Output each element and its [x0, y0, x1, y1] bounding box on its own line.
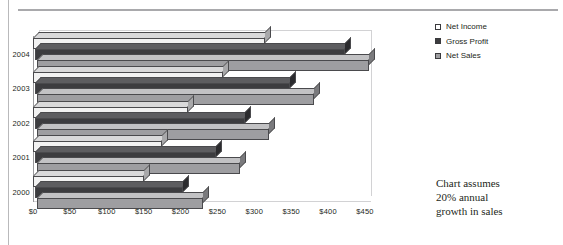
y-axis-tick-2000: 2000 — [4, 188, 30, 197]
bar-side-face — [203, 186, 209, 203]
bar-side-face — [290, 71, 296, 88]
legend-label: Net Income — [446, 22, 487, 31]
x-axis-tick-200: $200 — [164, 207, 198, 216]
bar-side-face — [245, 106, 251, 123]
legend-label: Gross Profit — [446, 37, 488, 46]
x-axis-tick-450: $450 — [348, 207, 382, 216]
y-axis-tick-2004: 2004 — [4, 50, 30, 59]
legend-swatch-net-income-icon — [435, 24, 441, 30]
bar-side-face — [265, 26, 271, 43]
bars-container — [33, 30, 411, 202]
x-axis-tick-400: $400 — [311, 207, 345, 216]
y-axis-tick-2001: 2001 — [4, 153, 30, 162]
x-axis-tick-150: $150 — [127, 207, 161, 216]
annotation-line-2: 20% annual — [436, 190, 561, 204]
bar-side-face — [269, 117, 275, 134]
annotation-line-1: Chart assumes — [436, 176, 561, 190]
x-axis-tick-50: $50 — [53, 207, 87, 216]
chart-annotation: Chart assumes 20% annual growth in sales — [436, 176, 561, 218]
x-axis-tick-250: $250 — [200, 207, 234, 216]
legend-swatch-gross-profit-icon — [435, 38, 441, 44]
legend-label: Net Sales — [446, 51, 481, 60]
y-axis-tick-2002: 2002 — [4, 119, 30, 128]
bar-side-face — [369, 48, 375, 65]
bar-side-face — [183, 175, 189, 192]
bar-side-face — [223, 60, 229, 77]
legend-item-net-income[interactable]: Net Income — [435, 22, 488, 31]
x-axis-tick-100: $100 — [90, 207, 124, 216]
chart-legend: Net IncomeGross ProfitNet Sales — [435, 22, 488, 66]
legend-item-gross-profit[interactable]: Gross Profit — [435, 37, 488, 46]
x-axis-tick-300: $300 — [237, 207, 271, 216]
x-axis-tick-0: $0 — [16, 207, 50, 216]
plot-area — [33, 30, 411, 202]
bar-chart: 20042003200220012000 $0$50$100$150$200$2… — [0, 0, 563, 245]
x-axis-tick-350: $350 — [274, 207, 308, 216]
legend-swatch-net-sales-icon — [435, 53, 441, 59]
bar-side-face — [314, 82, 320, 99]
y-axis-tick-2003: 2003 — [4, 84, 30, 93]
bar-side-face — [345, 37, 351, 54]
bar-side-face — [216, 140, 222, 157]
legend-item-net-sales[interactable]: Net Sales — [435, 51, 488, 60]
bar-side-face — [240, 151, 246, 168]
annotation-line-3: growth in sales — [436, 204, 561, 218]
